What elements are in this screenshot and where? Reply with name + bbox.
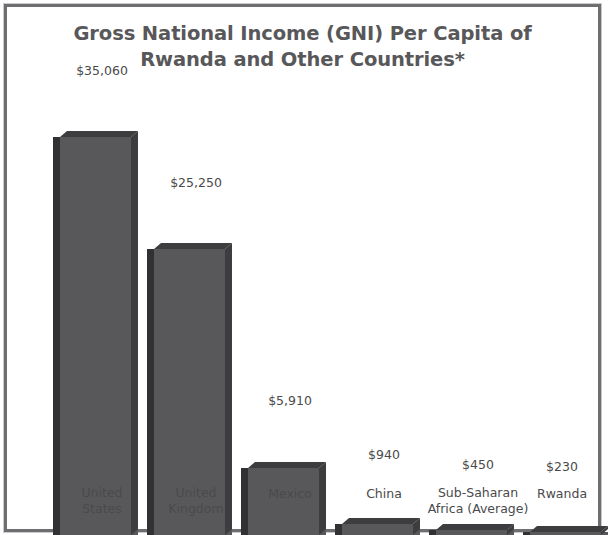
bar-top-face-united-states <box>60 131 138 137</box>
bar-group-china[interactable]: $940 China <box>335 7 433 535</box>
bar-value-label-china: $940 <box>335 447 433 462</box>
category-line-2: Kingdom <box>141 501 251 517</box>
bar-value-label-mexico: $5,910 <box>241 393 339 408</box>
bar-side-face-china <box>335 524 342 535</box>
bar-value-label-rwanda: $230 <box>513 459 611 474</box>
chart-frame: Gross National Income (GNI) Per Capita o… <box>4 4 601 532</box>
bar-top-face-mexico <box>248 462 326 468</box>
bar-value-label-united-states: $35,060 <box>53 63 151 78</box>
bar-front-face-mexico <box>248 468 326 535</box>
bar-3d-rwanda <box>523 526 613 535</box>
bar-3d-china <box>335 518 427 535</box>
bar-front-face-sub-saharan-africa <box>436 530 514 535</box>
bar-group-mexico[interactable]: $5,910 Mexico <box>241 7 339 535</box>
bar-group-sub-saharan-africa[interactable]: $450 Sub-Saharan Africa (Average) <box>429 7 527 535</box>
bar-front-face-united-states <box>60 137 138 535</box>
bar-top-face-rwanda <box>530 526 608 532</box>
bar-group-rwanda[interactable]: $230 Rwanda <box>523 7 613 535</box>
bar-side-face-sub-saharan-africa <box>429 530 436 535</box>
category-line-2: Africa (Average) <box>417 501 539 517</box>
bar-side-face-united-states <box>53 137 60 535</box>
bar-group-united-states[interactable]: $35,060 United States <box>53 7 151 535</box>
bar-top-face-united-kingdom <box>154 243 232 249</box>
bar-3d-united-states <box>53 131 145 535</box>
bar-top-shade-united-states <box>131 131 138 535</box>
bar-top-face-sub-saharan-africa <box>436 524 514 530</box>
category-line-1: Rwanda <box>507 486 613 502</box>
bar-top-face-china <box>342 518 420 524</box>
bar-category-label-rwanda: Rwanda <box>507 486 613 502</box>
bar-front-face-china <box>342 524 420 535</box>
plot-area: $35,060 United States $25,250 Uni <box>7 7 604 535</box>
bar-3d-sub-saharan-africa <box>429 524 521 535</box>
bar-group-united-kingdom[interactable]: $25,250 United Kingdom <box>147 7 245 535</box>
bar-value-label-united-kingdom: $25,250 <box>147 175 245 190</box>
